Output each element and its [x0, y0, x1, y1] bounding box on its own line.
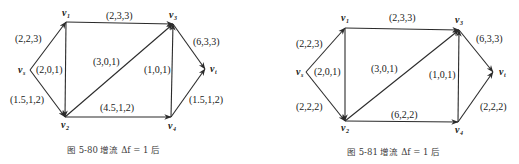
- edge-label-v1-v3: (2,3,3): [106, 10, 133, 22]
- edge-label-v2-v3: (3,0,1): [93, 56, 120, 68]
- node-label-v2: v2: [61, 119, 69, 131]
- node-label-vt: vt: [499, 66, 506, 78]
- figure-5-80: (2,2,3)(1.5,1,2)(2,0,1)(2,3,3)(3,0,1)(4.…: [10, 7, 223, 155]
- node-label-v4: v4: [455, 124, 463, 136]
- figure-5-81: (2,2,3)(2,2,2)(2,0,1)(2,3,3)(3,0,1)(6,2,…: [296, 12, 507, 157]
- node-label-vs: vs: [18, 64, 26, 76]
- edge-label-v1-v3: (2,3,3): [389, 12, 416, 24]
- edge-label-vs-v1: (2,2,3): [296, 38, 323, 50]
- node-label-vt: vt: [210, 63, 217, 75]
- edge-vs-v1: [30, 22, 66, 70]
- edge-v1-v3: [345, 28, 459, 30]
- edge-label-v2-v4: (4.5,1,2): [100, 102, 134, 114]
- edge-v4-vt: [458, 72, 493, 122]
- edge-vs-v2: [306, 72, 345, 121]
- node-label-v1: v1: [341, 12, 349, 24]
- edge-label-vs-v2: (1.5,1,2): [10, 94, 44, 106]
- edge-label-vs-v2: (2,2,2): [296, 101, 323, 113]
- edge-label-v1-v2: (2,0,1): [36, 64, 63, 76]
- edge-label-v4-vt: (1.5,1,2): [189, 94, 223, 106]
- node-label-v2: v2: [341, 122, 349, 134]
- edge-label-vs-v1: (2,2,3): [15, 33, 42, 45]
- network-flow-diagrams: (2,2,3)(1.5,1,2)(2,0,1)(2,3,3)(3,0,1)(4.…: [0, 0, 519, 164]
- figure-caption: 图 5-80 增流 Δf = 1 后: [67, 145, 160, 155]
- edge-v4-vt: [171, 69, 205, 117]
- node-label-v4: v4: [168, 120, 176, 132]
- edge-v4-v3: [171, 24, 173, 117]
- edge-label-v1-v2: (2,0,1): [314, 66, 341, 78]
- edge-label-v3-vt: (6,3,3): [476, 33, 503, 45]
- node-label-v3: v3: [169, 9, 177, 21]
- node-label-vs: vs: [296, 66, 304, 78]
- edge-v4-v3: [458, 30, 459, 122]
- edge-label-v2-v3: (3,0,1): [371, 63, 398, 75]
- figure-caption: 图 5-81 增流 Δf = 1 后: [347, 147, 440, 157]
- edge-v1-v3: [66, 22, 173, 24]
- edge-label-v3-vt: (6,3,3): [193, 36, 220, 48]
- edge-v1-v2: [65, 22, 66, 117]
- edge-label-v4-vt: (2,2,2): [480, 101, 507, 113]
- edge-label-v4-v3: (1,0,1): [144, 64, 171, 76]
- node-label-v3: v3: [455, 14, 463, 26]
- edge-v2-v4: [345, 121, 458, 122]
- node-label-v1: v1: [62, 7, 70, 19]
- edge-label-v4-v3: (1,0,1): [429, 69, 456, 81]
- edge-label-v2-v4: (6,2,2): [391, 109, 418, 121]
